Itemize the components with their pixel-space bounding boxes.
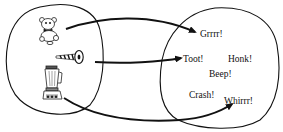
mapping-diagram bbox=[0, 0, 283, 132]
arrow-blender-to-whirrr bbox=[64, 98, 232, 121]
horn-icon bbox=[56, 51, 83, 64]
sound-label-beep: Beep! bbox=[209, 70, 232, 80]
sound-label-honk: Honk! bbox=[228, 55, 252, 65]
blender-icon bbox=[43, 66, 62, 99]
sound-label-toot: Toot! bbox=[183, 55, 203, 65]
arrow-horn-to-toot bbox=[95, 58, 181, 63]
sound-label-grrrr: Grrrr! bbox=[200, 30, 223, 40]
sound-label-whirrr: Whirrr! bbox=[224, 97, 253, 107]
sound-label-crash: Crash! bbox=[189, 91, 214, 101]
teddy-bear-icon bbox=[40, 18, 59, 45]
